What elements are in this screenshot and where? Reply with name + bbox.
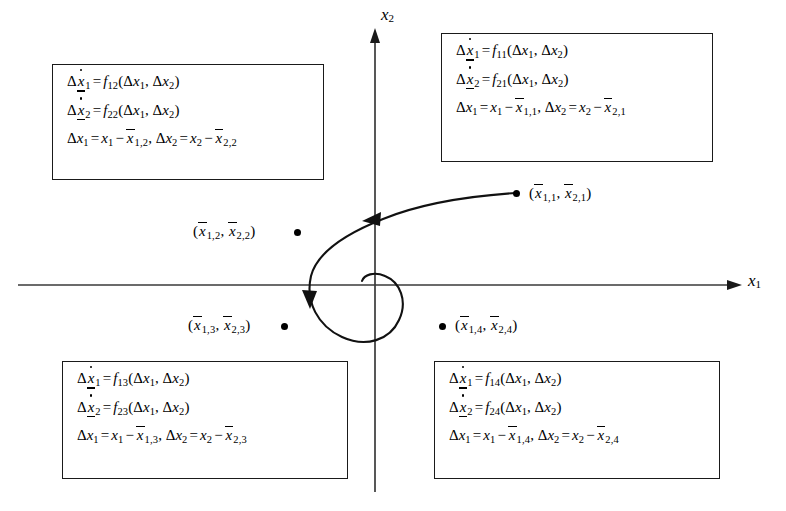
x-symbol: x bbox=[579, 99, 586, 115]
delta-symbol: Δ bbox=[512, 42, 522, 58]
x-bar-steady-state: x bbox=[126, 131, 135, 146]
x-symbol: x bbox=[133, 102, 140, 118]
y-axis-label: x2 bbox=[381, 6, 394, 24]
equals-symbol: = bbox=[567, 99, 579, 115]
equals-symbol: = bbox=[91, 73, 103, 89]
equation-line-xdot2: Δx2=f23(Δx1, Δx2) bbox=[77, 400, 333, 418]
x-bar-steady-state: x bbox=[515, 100, 524, 115]
x-bar-steady-state: x bbox=[460, 318, 469, 333]
equation-line-xdot1: Δx1=f13(Δx1, Δx2) bbox=[77, 371, 333, 389]
equals-symbol: = bbox=[478, 99, 490, 115]
x-axis-label-symbol: x bbox=[748, 271, 756, 290]
minus-symbol: − bbox=[591, 99, 603, 115]
delta-symbol: Δ bbox=[67, 73, 77, 89]
equals-symbol: = bbox=[91, 102, 103, 118]
equals-symbol: = bbox=[89, 130, 101, 146]
equation-line-xdot1: Δx1=f11(Δx1, Δx2) bbox=[456, 43, 698, 61]
x-dot-underlined: x bbox=[77, 103, 86, 118]
steady-state-subscript: 2,3 bbox=[233, 434, 247, 445]
delta-symbol: Δ bbox=[123, 73, 133, 89]
x-bar-steady-state: x bbox=[198, 224, 207, 239]
delta-symbol: Δ bbox=[156, 130, 166, 146]
state-index: 1 bbox=[85, 80, 90, 91]
delta-symbol: Δ bbox=[538, 427, 548, 443]
operating-point-label-2: (x1,2, x2,2) bbox=[193, 224, 255, 242]
minus-symbol: − bbox=[495, 427, 507, 443]
equation-box-quadrant-2: Δx1=f12(Δx1, Δx2) Δx2=f22(Δx1, Δx2) Δx1=… bbox=[52, 64, 324, 180]
point-subscript-2: 2,2 bbox=[237, 230, 251, 241]
x-symbol: x bbox=[190, 130, 197, 146]
x-symbol: x bbox=[172, 370, 179, 386]
operating-point-marker-4 bbox=[439, 323, 446, 330]
x-symbol: x bbox=[483, 427, 490, 443]
equals-symbol: = bbox=[99, 427, 111, 443]
equals-symbol: = bbox=[473, 399, 485, 415]
state-index: 1 bbox=[474, 49, 479, 60]
equation-line-xdot2: Δx2=f22(Δx1, Δx2) bbox=[67, 103, 309, 121]
x-dot-underlined: x bbox=[459, 371, 468, 386]
x-axis-label: x1 bbox=[748, 272, 761, 290]
equals-symbol: = bbox=[471, 427, 483, 443]
x-symbol: x bbox=[544, 399, 551, 415]
steady-state-subscript: 2,1 bbox=[612, 106, 626, 117]
delta-symbol: Δ bbox=[163, 399, 173, 415]
x-symbol: x bbox=[515, 399, 522, 415]
equation-line-deviation: Δx1=x1−x1,2, Δx2=x2−x2,2 bbox=[67, 131, 309, 149]
state-index: 1 bbox=[95, 377, 100, 388]
state-index: 1 bbox=[472, 106, 477, 117]
state-index: 2 bbox=[182, 434, 187, 445]
equation-line-xdot1: Δx1=f14(Δx1, Δx2) bbox=[449, 371, 705, 389]
state-index: 1 bbox=[465, 434, 470, 445]
x-bar-steady-state: x bbox=[490, 318, 499, 333]
minus-symbol: − bbox=[584, 427, 596, 443]
x-symbol: x bbox=[133, 73, 140, 89]
delta-symbol: Δ bbox=[545, 99, 555, 115]
point-subscript-2: 2,1 bbox=[573, 192, 587, 203]
function-subscript: 11 bbox=[496, 49, 507, 60]
equation-box-quadrant-4: Δx1=f14(Δx1, Δx2) Δx2=f24(Δx1, Δx2) Δx1=… bbox=[434, 361, 720, 479]
rparen: ) bbox=[563, 42, 568, 58]
point-subscript-1: 1,2 bbox=[207, 230, 221, 241]
x-dot-underlined: x bbox=[77, 74, 86, 89]
x-symbol: x bbox=[143, 399, 150, 415]
delta-symbol: Δ bbox=[541, 42, 551, 58]
function-subscript: 21 bbox=[496, 78, 507, 89]
x-symbol: x bbox=[572, 427, 579, 443]
state-index: 1 bbox=[93, 434, 98, 445]
x-symbol: x bbox=[162, 102, 169, 118]
steady-state-subscript: 1,1 bbox=[524, 106, 538, 117]
function-subscript: 14 bbox=[489, 377, 500, 388]
point-subscript-2: 2,3 bbox=[232, 324, 246, 335]
steady-state-subscript: 1,2 bbox=[135, 137, 149, 148]
equals-symbol: = bbox=[101, 399, 113, 415]
comma: , bbox=[556, 185, 560, 201]
delta-symbol: Δ bbox=[542, 71, 552, 87]
state-index: 2 bbox=[85, 109, 90, 120]
comma: , bbox=[155, 399, 159, 415]
x-dot-underlined: x bbox=[459, 400, 468, 415]
equation-line-deviation: Δx1=x1−x1,4, Δx2=x2−x2,4 bbox=[449, 428, 705, 446]
x-symbol: x bbox=[200, 427, 207, 443]
steady-state-subscript: 2,4 bbox=[605, 434, 619, 445]
minus-symbol: − bbox=[202, 130, 214, 146]
state-index: 1 bbox=[83, 137, 88, 148]
function-subscript: 23 bbox=[117, 406, 128, 417]
rparen: ) bbox=[556, 399, 561, 415]
minus-symbol: − bbox=[113, 130, 125, 146]
x-bar-steady-state: x bbox=[228, 224, 237, 239]
point-subscript-1: 1,3 bbox=[202, 324, 216, 335]
point-subscript-1: 1,1 bbox=[543, 192, 557, 203]
function-subscript: 24 bbox=[489, 406, 500, 417]
delta-symbol: Δ bbox=[505, 370, 515, 386]
operating-point-marker-3 bbox=[281, 323, 288, 330]
point-subscript-2: 2,4 bbox=[499, 324, 513, 335]
state-index: 2 bbox=[172, 137, 177, 148]
x-bar-steady-state: x bbox=[604, 100, 613, 115]
rparen: ) bbox=[250, 223, 255, 239]
comma: , bbox=[145, 102, 149, 118]
x-symbol: x bbox=[111, 427, 118, 443]
state-index: 1 bbox=[467, 377, 472, 388]
comma: , bbox=[155, 370, 159, 386]
delta-symbol: Δ bbox=[153, 73, 163, 89]
operating-point-label-3: (x1,3, x2,3) bbox=[188, 318, 250, 336]
